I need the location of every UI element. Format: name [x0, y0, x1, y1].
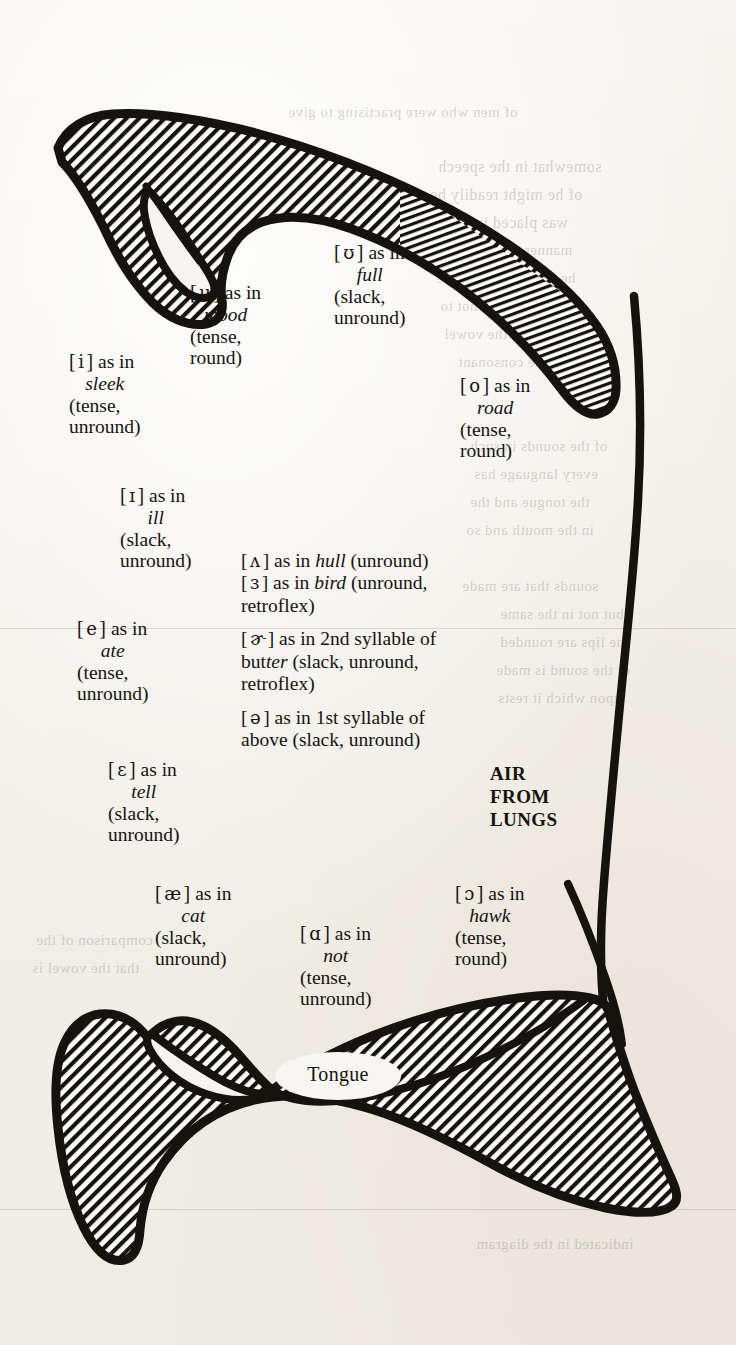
- vowel-annotation-u: [u] as in mood (tense, round): [190, 281, 261, 369]
- vowel-o-quality-1: (tense,: [460, 419, 530, 441]
- vowel-i-quality-1: (tense,: [69, 395, 141, 417]
- pharyngeal-wall-line: [601, 296, 640, 1082]
- vowel-u-example-word: mood: [190, 304, 261, 326]
- vowel-e-symbol-line: [e] as in: [77, 617, 149, 640]
- air-from-lungs-label: AIR FROM LUNGS: [490, 762, 557, 832]
- vowel-o-example-word: road: [460, 397, 530, 419]
- vowel-open-o-symbol-line: [ɔ] as in: [455, 882, 525, 905]
- bleed-text: the tongue and the: [470, 494, 589, 511]
- vowel-script-a-quality-2: unround): [300, 988, 372, 1010]
- vowel-o-quality-2: round): [460, 440, 530, 462]
- vowel-annotation-e: [e] as in ate (tense, unround): [77, 617, 149, 705]
- vowel-annotation-open-o: [ɔ] as in hawk (tense, round): [455, 882, 525, 970]
- vowel-annotation-epsilon: [ɛ] as in tell (slack, unround): [108, 758, 180, 846]
- vowel-annotation-ash: [æ] as in cat (slack, unround): [155, 882, 231, 970]
- air-label-line-3: LUNGS: [490, 808, 557, 831]
- bleed-text: considerably in the: [482, 1038, 606, 1055]
- vowel-epsilon-quality-1: (slack,: [108, 803, 180, 825]
- vowel-ash-example-word: cat: [155, 905, 231, 927]
- vowel-e-quality-2: unround): [77, 683, 149, 705]
- bleed-text: sounds in the English: [486, 1066, 625, 1083]
- vowel-annotation-small-i: [ɪ] as in ill (slack, unround): [120, 484, 192, 572]
- vowel-ash-quality-1: (slack,: [155, 927, 231, 949]
- vowel-annotation-i: [i] as in sleek (tense, unround): [69, 350, 141, 438]
- bleed-text: of. It would be not to: [440, 298, 578, 315]
- vowel-upsilon-symbol-line: [ʊ] as in: [334, 241, 406, 264]
- vowel-epsilon-quality-2: unround): [108, 824, 180, 846]
- vowel-o-symbol-line: [o] as in: [460, 374, 530, 397]
- bleed-text: understand the vowel: [444, 326, 582, 343]
- vowel-ash-quality-2: unround): [155, 948, 231, 970]
- central-vowel-caret-and-reversed-epsilon: [ʌ] as in hull (unround) [ɜ] as in bird …: [241, 550, 541, 617]
- vowel-i-example-word: sleek: [69, 373, 141, 395]
- vowel-open-o-quality-2: round): [455, 948, 525, 970]
- vowel-small-i-quality-2: unround): [120, 550, 192, 572]
- air-label-line-1: AIR: [490, 762, 557, 785]
- vowel-u-symbol-line: [u] as in: [190, 281, 261, 304]
- bleed-text: somewhat in the speech: [438, 158, 601, 176]
- vowel-u-quality-2: round): [190, 347, 261, 369]
- vowel-annotation-upsilon: [ʊ] as in full (slack, unround): [334, 241, 406, 329]
- scanned-page: of men who were practising to give somew…: [0, 0, 736, 1345]
- vowel-annotation-script-a: [ɑ] as in not (tense, unround): [300, 922, 372, 1010]
- bleed-text: of men who were practising to give: [288, 104, 517, 121]
- vowel-upsilon-example-word: full: [334, 264, 406, 286]
- bleed-text: manner the source of: [436, 242, 572, 259]
- bleed-text: every language has: [474, 466, 598, 483]
- bleed-text: in the mouth and so: [466, 522, 594, 539]
- vowel-small-i-symbol-line: [ɪ] as in: [120, 484, 192, 507]
- vowel-upsilon-quality-2: unround): [334, 307, 406, 329]
- vowel-e-quality-1: (tense,: [77, 662, 149, 684]
- vowel-script-a-quality-1: (tense,: [300, 967, 372, 989]
- air-label-line-2: FROM: [490, 785, 557, 808]
- vowel-annotation-o: [o] as in road (tense, round): [460, 374, 530, 462]
- vowel-script-a-example-word: not: [300, 945, 372, 967]
- bleed-text: comparison of the: [36, 932, 153, 949]
- epiglottis-line: [568, 884, 622, 1044]
- vowel-e-example-word: ate: [77, 640, 149, 662]
- bleed-text: and the consonant: [458, 354, 575, 371]
- vowel-open-o-quality-1: (tense,: [455, 927, 525, 949]
- vowel-i-quality-2: unround): [69, 416, 141, 438]
- central-vowels-block: [ʌ] as in hull (unround) [ɜ] as in bird …: [241, 550, 541, 751]
- scan-artifact-line: [0, 1209, 736, 1210]
- bleed-text: indicated in the diagram: [476, 1236, 633, 1253]
- vowel-i-symbol-line: [i] as in: [69, 350, 141, 373]
- central-vowel-schwa: [ə] as in 1st syllable of above (slack, …: [241, 707, 541, 752]
- tongue-label: Tongue: [278, 1063, 398, 1086]
- vowel-script-a-symbol-line: [ɑ] as in: [300, 922, 372, 945]
- vowel-ash-symbol-line: [æ] as in: [155, 882, 231, 905]
- vowel-open-o-example-word: hawk: [455, 905, 525, 927]
- vowel-small-i-example-word: ill: [120, 507, 192, 529]
- bleed-text: he will see that in the: [436, 270, 575, 287]
- vowel-u-quality-1: (tense,: [190, 326, 261, 348]
- lower-tongue-group: [0, 960, 736, 1320]
- bleed-text: of he might readily be: [430, 186, 582, 204]
- vowel-small-i-quality-1: (slack,: [120, 529, 192, 551]
- vowel-epsilon-symbol-line: [ɛ] as in: [108, 758, 180, 781]
- central-vowel-rhotic-schwa: [ɚ] as in 2nd syllable of butter (slack,…: [241, 628, 541, 695]
- vowel-epsilon-example-word: tell: [108, 781, 180, 803]
- vowel-upsilon-quality-1: (slack,: [334, 286, 406, 308]
- bleed-text: that the vowel is: [32, 960, 139, 977]
- bleed-text: was placed in every: [432, 214, 568, 232]
